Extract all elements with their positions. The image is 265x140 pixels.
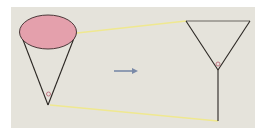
unfolded-figure <box>186 21 250 121</box>
connector-line-bottom <box>50 105 218 121</box>
triangle-side-left <box>186 21 218 70</box>
transform-arrow-icon <box>114 68 138 74</box>
cone-figure <box>20 15 77 105</box>
triangle-side-right <box>218 21 250 70</box>
diagram-canvas <box>0 0 265 140</box>
cone-base-ellipse <box>20 15 77 49</box>
vertex-angle-marker <box>216 62 220 66</box>
connector-line-top <box>77 21 186 33</box>
cone-angle-marker <box>47 92 51 96</box>
